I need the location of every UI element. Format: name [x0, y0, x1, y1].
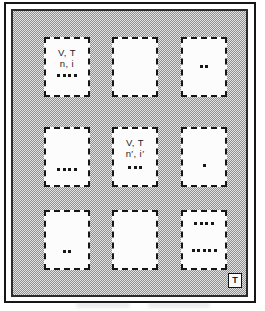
system-cell-top-right — [181, 37, 227, 97]
particle-dots — [183, 249, 225, 252]
particle-dot — [57, 74, 60, 77]
print-bleedthrough-artifact — [76, 302, 130, 308]
particle-dots — [183, 65, 225, 68]
particle-dot — [74, 74, 77, 77]
system-cell-top-left: V, Tn, i — [44, 37, 90, 97]
particle-dot — [128, 166, 131, 169]
label-line1: V, T — [58, 47, 76, 58]
particle-dot — [134, 166, 137, 169]
particle-dots — [46, 250, 88, 253]
particle-dot — [68, 250, 71, 253]
particle-dot — [205, 65, 208, 68]
system-cell-bottom-center — [112, 210, 158, 270]
particle-dot — [63, 74, 66, 77]
particle-dot — [200, 222, 203, 225]
particle-dots — [183, 164, 225, 167]
particle-dot — [63, 250, 66, 253]
particle-dot — [192, 249, 195, 252]
figure-frame: V, Tn, i V, Tn′, i′ T — [4, 2, 256, 303]
particle-dot — [197, 249, 200, 252]
particle-dot — [211, 222, 214, 225]
particle-dot — [203, 164, 206, 167]
particle-dot — [194, 222, 197, 225]
label-line1: V, T — [126, 137, 144, 148]
system-labels: V, Tn, i — [46, 47, 88, 69]
particle-dots — [114, 166, 156, 169]
system-cell-middle-center: V, Tn′, i′ — [112, 127, 158, 187]
particle-dots — [46, 74, 88, 77]
system-cell-top-center — [112, 37, 158, 97]
label-line2: n′, i′ — [126, 148, 145, 159]
system-cell-bottom-left — [44, 210, 90, 270]
particle-dot — [63, 168, 66, 171]
system-labels: V, Tn′, i′ — [114, 137, 156, 159]
particle-dot — [74, 168, 77, 171]
particle-dot — [203, 249, 206, 252]
particle-dot — [200, 65, 203, 68]
heat-bath-region: V, Tn, i V, Tn′, i′ T — [11, 9, 248, 297]
system-cell-middle-right — [181, 127, 227, 187]
temperature-badge: T — [228, 273, 242, 288]
particle-dot — [68, 168, 71, 171]
particle-dot — [205, 222, 208, 225]
system-cell-middle-left — [44, 127, 90, 187]
print-bleedthrough-artifact — [148, 302, 210, 308]
particle-dot — [57, 168, 60, 171]
particle-dots — [183, 222, 225, 225]
particle-dot — [214, 249, 217, 252]
system-cell-bottom-right — [181, 210, 227, 270]
particle-dot — [208, 249, 211, 252]
particle-dot — [139, 166, 142, 169]
label-line2: n, i — [60, 58, 74, 69]
particle-dots — [46, 168, 88, 171]
particle-dot — [68, 74, 71, 77]
